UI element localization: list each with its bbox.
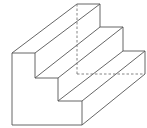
front-face: [12, 53, 82, 125]
depth-edge: [82, 74, 145, 125]
staircase-diagram: [0, 0, 147, 128]
visible-edges: [12, 4, 145, 125]
hidden-edges: [77, 4, 145, 74]
back-profile: [77, 4, 145, 74]
